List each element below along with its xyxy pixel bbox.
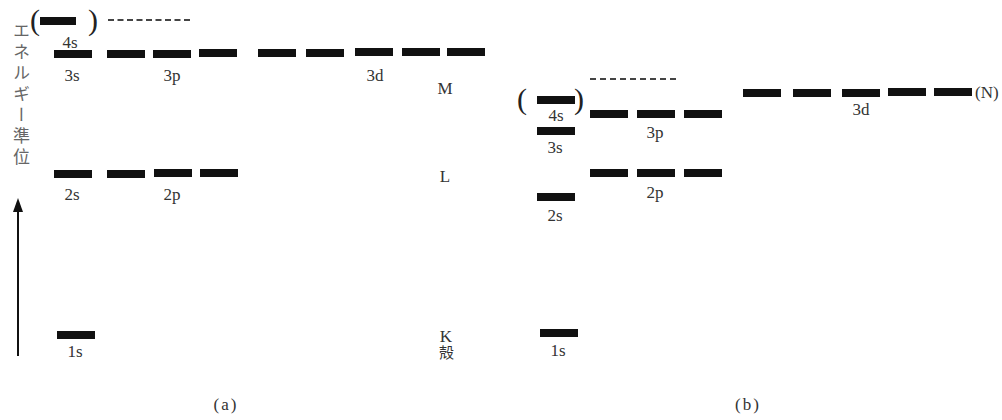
level-3d-4 [402, 48, 440, 56]
label-3s-b: 3s [547, 139, 562, 156]
level-3d-1-b [743, 89, 781, 97]
label-3p: 3p [164, 67, 181, 84]
level-2p-1-b [590, 169, 628, 177]
paren-open-b: ( [517, 84, 527, 114]
level-3p-2 [153, 50, 191, 58]
label-2s: 2s [64, 186, 79, 203]
caption-a: (a) [214, 396, 239, 413]
label-1s-b: 1s [550, 342, 565, 359]
label-3d: 3d [367, 67, 384, 84]
label-3s: 3s [64, 67, 79, 84]
level-2s-b [537, 193, 575, 201]
dashed-line-4p [108, 19, 190, 21]
level-3p-2-b [637, 110, 675, 118]
level-3d-5 [447, 48, 485, 56]
level-3d-5-b [934, 88, 972, 96]
level-2p-2-b [637, 169, 675, 177]
level-1s-b [540, 329, 578, 337]
level-3s [54, 50, 92, 58]
label-1s: 1s [67, 343, 82, 360]
level-4s [40, 17, 76, 25]
shell-L: L [440, 168, 450, 185]
level-3p-1-b [590, 110, 628, 118]
level-3d-3 [355, 48, 393, 56]
level-2p-1 [107, 170, 145, 178]
level-2p-3-b [684, 169, 722, 177]
level-3d-2-b [793, 89, 831, 97]
level-3d-4-b [888, 88, 926, 96]
shell-K: K [440, 328, 452, 345]
level-3s-b [537, 127, 575, 135]
paren-close-b: ) [574, 84, 584, 114]
level-4s-b [537, 96, 575, 104]
level-3d-1 [258, 49, 296, 57]
energy-level-axis-label: エネルギー準位 [8, 22, 33, 169]
label-2p: 2p [164, 186, 181, 203]
level-3d-2 [306, 49, 344, 57]
paren-open: ( [30, 5, 40, 35]
paren-close: ) [88, 5, 98, 35]
energy-axis-arrow [17, 210, 19, 356]
label-4s-b: 4s [548, 107, 563, 124]
label-3p-b: 3p [647, 124, 664, 141]
shell-kaku: 殻 [439, 345, 454, 362]
label-4s: 4s [62, 34, 77, 51]
label-2s-b: 2s [547, 207, 562, 224]
label-3d-b: 3d [853, 101, 870, 118]
caption-b: (b) [735, 396, 761, 413]
level-3p-3 [199, 49, 237, 57]
shell-M: M [437, 80, 452, 97]
level-3p-1 [107, 50, 145, 58]
level-2s [54, 170, 92, 178]
level-3p-3-b [684, 110, 722, 118]
dashed-line-4p-b [590, 78, 676, 80]
level-2p-2 [154, 169, 192, 177]
level-3d-3-b [842, 89, 880, 97]
level-1s [57, 331, 95, 339]
level-2p-3 [200, 169, 238, 177]
shell-N: (N) [975, 84, 999, 101]
label-2p-b: 2p [647, 184, 664, 201]
